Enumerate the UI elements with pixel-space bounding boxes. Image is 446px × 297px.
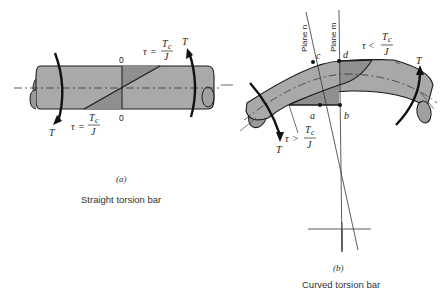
straight-bar-left-stub — [30, 90, 36, 109]
stress-top-flat — [339, 60, 372, 61]
svg-text:τ: τ — [362, 40, 366, 51]
point-a — [318, 103, 322, 107]
zero-stress-bottom: 0 — [119, 113, 124, 123]
point-b — [338, 103, 342, 107]
svg-text:τ: τ — [143, 46, 147, 57]
svg-text:c: c — [311, 128, 315, 137]
point-c-label: c — [316, 50, 321, 61]
stress-label-inner: τ > T c J — [285, 124, 316, 150]
svg-text:J: J — [384, 46, 389, 57]
svg-text:=: = — [78, 121, 85, 132]
figure-a-caption: Straight torsion bar — [81, 194, 161, 205]
svg-text:c: c — [388, 35, 392, 44]
stress-label-bottom: τ = T c J — [71, 112, 100, 137]
plane-n-label: Plane n — [300, 25, 309, 52]
figure-b-tag: (b) — [333, 263, 344, 273]
torque-label-right-curved: T — [416, 55, 423, 66]
point-d-label: d — [343, 49, 349, 60]
plane-m-line — [339, 10, 342, 250]
point-c — [311, 60, 315, 64]
svg-text:c: c — [95, 116, 99, 125]
point-b-label: b — [344, 110, 349, 121]
stress-label-outer: τ < T c J — [362, 31, 393, 57]
svg-text:τ: τ — [285, 133, 289, 144]
stress-label-top: τ = T c J — [143, 38, 173, 62]
svg-text:τ: τ — [71, 121, 75, 132]
torque-arrowhead-left-curved — [276, 132, 284, 142]
figure-b-caption: Curved torsion bar — [302, 279, 380, 290]
svg-text:J: J — [307, 139, 312, 150]
point-d — [337, 59, 341, 63]
torque-label-left-curved: T — [276, 144, 283, 155]
curved-torsion-bar: c d a b Plane n Plane m T T τ < T c J τ … — [221, 10, 437, 290]
svg-text:=: = — [150, 46, 157, 57]
straight-torsion-bar: T T 0 0 τ = T c J τ = T c J (a) Straight… — [14, 36, 220, 205]
straight-bar-right-end — [202, 87, 214, 107]
svg-text:<: < — [368, 40, 375, 51]
svg-text:>: > — [292, 133, 299, 144]
svg-text:c: c — [168, 42, 172, 51]
svg-text:J: J — [91, 126, 96, 137]
svg-text:J: J — [164, 51, 169, 62]
plane-m-label: Plane m — [329, 22, 338, 52]
torsion-bar-figure: T T 0 0 τ = T c J τ = T c J (a) Straight… — [0, 0, 446, 297]
figure-a-tag: (a) — [116, 174, 127, 184]
torque-label-right: T — [182, 36, 189, 47]
stress-leader-inner — [289, 105, 298, 133]
point-a-label: a — [310, 110, 315, 121]
curved-bar-right-end — [415, 100, 433, 124]
zero-stress-top: 0 — [119, 55, 124, 65]
torque-label-left: T — [49, 127, 56, 138]
